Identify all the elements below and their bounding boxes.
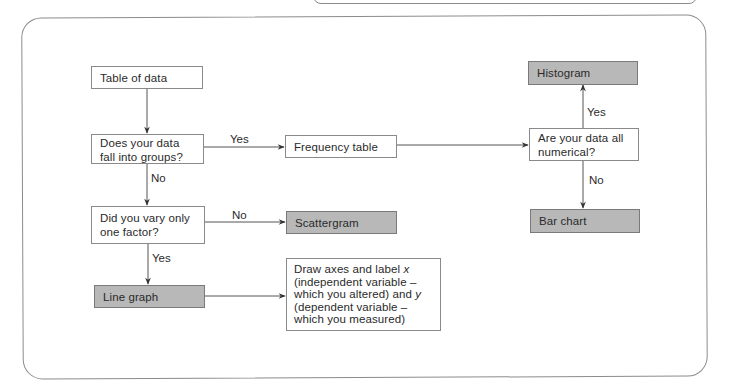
node-question-one-factor-label: Did you vary only one factor? bbox=[100, 212, 190, 238]
node-line-graph: Line graph bbox=[94, 285, 205, 308]
edge-label-groups-no: No bbox=[151, 172, 166, 184]
node-question-numerical: Are your data all numerical? bbox=[529, 128, 639, 161]
node-question-one-factor: Did you vary only one factor? bbox=[91, 206, 205, 244]
draw-axes-x: x bbox=[403, 263, 409, 275]
draw-axes-text-1: Draw axes and label bbox=[294, 263, 403, 275]
node-scattergram-label: Scattergram bbox=[295, 217, 359, 229]
node-frequency-table: Frequency table bbox=[285, 135, 397, 158]
edge-label-factor-no: No bbox=[232, 209, 247, 221]
node-scattergram: Scattergram bbox=[286, 211, 397, 234]
edge-label-factor-yes: Yes bbox=[152, 252, 171, 264]
draw-axes-text-3: (dependent variable – which you measured… bbox=[294, 301, 407, 326]
node-frequency-table-label: Frequency table bbox=[294, 141, 378, 153]
draw-axes-text-2: (independent variable – which you altere… bbox=[294, 276, 417, 301]
node-histogram: Histogram bbox=[528, 61, 638, 85]
node-draw-axes: Draw axes and label x (independent varia… bbox=[286, 258, 441, 331]
node-histogram-label: Histogram bbox=[537, 67, 590, 79]
edge-label-numerical-no: No bbox=[589, 174, 604, 186]
node-table-of-data: Table of data bbox=[91, 66, 203, 89]
node-question-groups: Does your data fall into groups? bbox=[91, 134, 204, 164]
node-question-groups-label: Does your data fall into groups? bbox=[100, 137, 183, 163]
node-bar-chart-label: Bar chart bbox=[539, 215, 587, 227]
node-table-of-data-label: Table of data bbox=[100, 72, 167, 84]
draw-axes-y: y bbox=[415, 288, 421, 300]
node-bar-chart: Bar chart bbox=[530, 209, 640, 233]
edge-label-groups-yes: Yes bbox=[230, 133, 249, 145]
node-question-numerical-label: Are your data all numerical? bbox=[538, 132, 623, 158]
node-line-graph-label: Line graph bbox=[103, 291, 158, 303]
edge-label-numerical-yes: Yes bbox=[587, 106, 606, 118]
